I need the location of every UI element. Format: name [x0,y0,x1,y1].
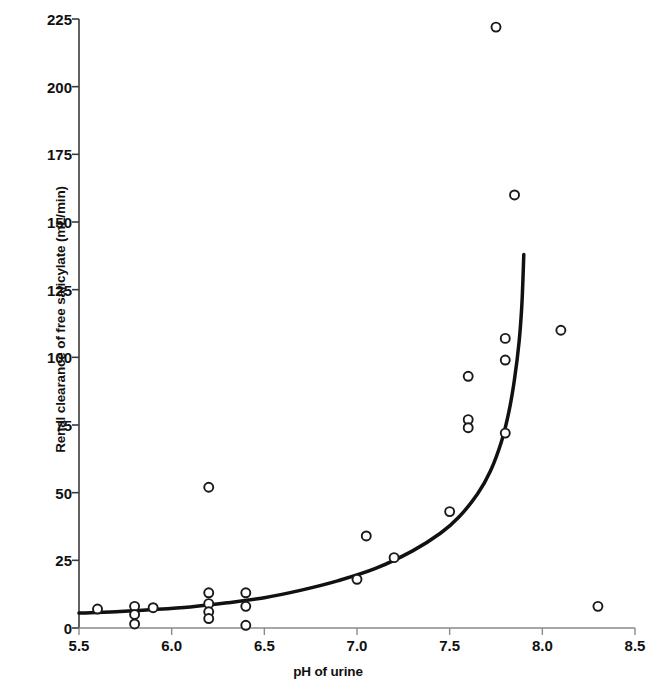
data-point [241,602,250,611]
data-point [445,507,454,516]
data-point [130,610,139,619]
data-point [492,23,501,32]
data-point [510,190,519,199]
data-point [464,372,473,381]
chart-figure: Renal clearance of free salicylate (mL/m… [0,0,656,685]
plot-area [0,0,656,685]
data-point [204,588,213,597]
fit-curve [79,254,524,613]
data-point [501,356,510,365]
data-point [556,326,565,335]
data-point [501,429,510,438]
data-point [362,531,371,540]
data-point [149,603,158,612]
data-point [130,619,139,628]
data-point-markers [93,23,602,630]
axis-lines [79,19,635,628]
data-point [204,614,213,623]
data-point [464,423,473,432]
data-point [241,621,250,630]
data-point [241,588,250,597]
data-point [593,602,602,611]
data-point [93,605,102,614]
data-point [390,553,399,562]
data-point [204,483,213,492]
data-point [501,334,510,343]
data-point [353,575,362,584]
axis-tick-marks [72,19,635,635]
